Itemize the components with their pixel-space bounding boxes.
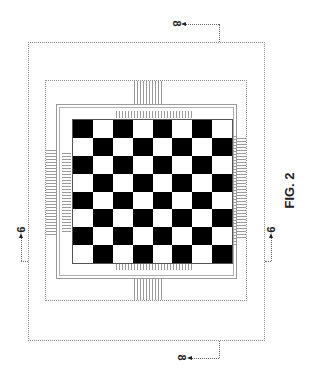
- board-cell-dark: [172, 174, 192, 192]
- section-marker-top: 8: [171, 20, 182, 26]
- board-cell-light: [212, 192, 232, 210]
- board-cell-dark: [93, 138, 113, 156]
- board-cell-light: [113, 174, 133, 192]
- board-cell-dark: [73, 227, 93, 245]
- board-cell-dark: [93, 245, 113, 263]
- board-cell-light: [113, 138, 133, 156]
- arrowhead-bottom-icon: [187, 356, 192, 360]
- board-cell-dark: [93, 174, 113, 192]
- board-cell-light: [212, 227, 232, 245]
- board-cell-light: [73, 245, 93, 263]
- board-cell-light: [172, 120, 192, 138]
- board-cell-light: [113, 209, 133, 227]
- board-cell-dark: [133, 174, 153, 192]
- section-line-right-foot: [265, 261, 271, 262]
- board-cell-light: [133, 192, 153, 210]
- board-cell-light: [73, 138, 93, 156]
- board-cell-dark: [113, 156, 133, 174]
- board-cell-dark: [133, 209, 153, 227]
- board-cell-light: [172, 156, 192, 174]
- bottom-inner-lead-hatch: [116, 264, 192, 270]
- board-cell-dark: [113, 192, 133, 210]
- section-line-left-foot: [21, 261, 28, 262]
- board-cell-light: [153, 209, 173, 227]
- board-cell-light: [192, 138, 212, 156]
- board-cell-dark: [212, 209, 232, 227]
- right-outer-lead-hatch: [237, 138, 246, 238]
- board-cell-dark: [133, 245, 153, 263]
- board-cell-light: [212, 156, 232, 174]
- section-line-right: [271, 237, 272, 261]
- left-outer-lead-hatch: [46, 150, 56, 235]
- board-cell-light: [153, 138, 173, 156]
- board-cell-light: [212, 120, 232, 138]
- bottom-lead-hatch: [134, 278, 162, 300]
- board-cell-dark: [113, 227, 133, 245]
- board-cell-dark: [172, 138, 192, 156]
- board-cell-light: [153, 174, 173, 192]
- top-lead-hatch: [134, 81, 162, 104]
- section-line-bottom-drop: [219, 341, 220, 358]
- board-cell-light: [192, 209, 212, 227]
- figure-label: FIG. 2: [283, 172, 296, 208]
- arrowhead-left-icon: [19, 233, 23, 238]
- board-cell-light: [93, 227, 113, 245]
- section-line-top-drop: [219, 24, 220, 42]
- board-cell-dark: [172, 209, 192, 227]
- section-line-bottom: [192, 358, 219, 359]
- board-cell-dark: [192, 227, 212, 245]
- board-cell-dark: [192, 120, 212, 138]
- board-cell-dark: [153, 156, 173, 174]
- board-cell-dark: [73, 156, 93, 174]
- board-cell-dark: [153, 192, 173, 210]
- board-cell-light: [93, 120, 113, 138]
- section-line-left: [21, 237, 22, 261]
- section-marker-right: 9: [265, 226, 276, 232]
- top-inner-lead-hatch: [116, 111, 192, 118]
- board-cell-light: [93, 192, 113, 210]
- board-cell-light: [192, 174, 212, 192]
- board-cell-dark: [212, 245, 232, 263]
- board-cell-dark: [73, 120, 93, 138]
- left-inner-lead-hatch: [62, 152, 71, 232]
- board-cell-dark: [212, 138, 232, 156]
- section-marker-left: 9: [15, 226, 26, 232]
- board-cell-light: [73, 209, 93, 227]
- arrowhead-right-icon: [269, 233, 273, 238]
- board-cell-light: [133, 120, 153, 138]
- board-cell-light: [133, 227, 153, 245]
- checkerboard-array: [72, 119, 233, 264]
- board-cell-light: [73, 174, 93, 192]
- board-cell-light: [93, 156, 113, 174]
- board-cell-dark: [192, 192, 212, 210]
- board-cell-dark: [133, 138, 153, 156]
- board-cell-dark: [212, 174, 232, 192]
- section-marker-bottom: 8: [176, 354, 187, 360]
- board-cell-light: [113, 245, 133, 263]
- section-line-top: [186, 24, 219, 25]
- board-cell-light: [153, 245, 173, 263]
- board-cell-dark: [93, 209, 113, 227]
- board-cell-light: [172, 227, 192, 245]
- board-cell-light: [133, 156, 153, 174]
- board-cell-dark: [172, 245, 192, 263]
- board-cell-dark: [192, 156, 212, 174]
- board-cell-light: [172, 192, 192, 210]
- board-cell-dark: [153, 227, 173, 245]
- board-cell-dark: [153, 120, 173, 138]
- board-cell-dark: [113, 120, 133, 138]
- board-cell-dark: [73, 192, 93, 210]
- board-cell-light: [192, 245, 212, 263]
